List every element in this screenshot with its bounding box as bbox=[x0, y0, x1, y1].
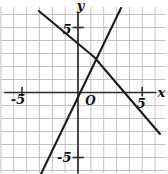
y-axis-label: y bbox=[76, 0, 86, 13]
graph-figure: -55-55xyO bbox=[0, 0, 168, 174]
origin-label: O bbox=[85, 94, 96, 108]
x-axis-label: x bbox=[157, 85, 166, 100]
y-tick-label: -5 bbox=[57, 150, 71, 165]
coordinate-plane-svg: -55-55xyO bbox=[0, 0, 168, 174]
x-tick-label: -5 bbox=[11, 92, 25, 107]
